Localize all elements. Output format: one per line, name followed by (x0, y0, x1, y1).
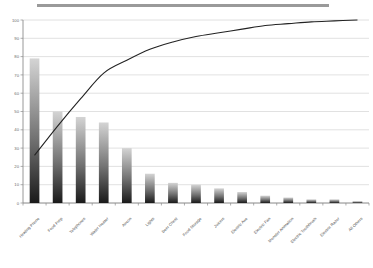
x-axis-label: Heating Phone (18, 216, 41, 239)
gridlines (23, 20, 369, 203)
bar (330, 199, 340, 203)
plot-svg: 0102030405060708090100 (0, 16, 373, 221)
x-axis-label: Food Prep (47, 216, 64, 233)
y-tick-label: 40 (14, 127, 19, 132)
y-tick-label: 90 (14, 36, 19, 41)
plot-area: 0102030405060708090100 (0, 16, 373, 221)
bar (283, 198, 293, 203)
bar (168, 183, 178, 203)
x-axis-label: Electric Razor (319, 216, 341, 238)
bar (237, 192, 247, 203)
title-bar (37, 4, 329, 7)
y-tick-label: 60 (14, 91, 19, 96)
x-axis-label: Electric Fan (252, 216, 271, 235)
x-axis-label: Telephones (68, 216, 86, 234)
x-axis-label: All Others (347, 216, 363, 232)
bar (191, 185, 201, 203)
y-tick-label: 50 (14, 109, 19, 114)
y-tick-label: 80 (14, 54, 19, 59)
y-tick-label: 70 (14, 73, 19, 78)
x-axis-label: Water Heater (89, 216, 110, 237)
y-tick-label: 10 (14, 182, 19, 187)
bar (99, 122, 109, 203)
x-axis-label: Beer Chest (161, 216, 179, 234)
bar (260, 196, 270, 203)
bar (122, 148, 132, 203)
y-tick-label: 20 (14, 164, 19, 169)
y-tick-labels: 0102030405060708090100 (12, 18, 20, 206)
bar (53, 112, 63, 204)
y-tick-label: 100 (12, 18, 20, 23)
x-axis-label: Aircon (121, 216, 133, 228)
x-axis-label: Food Storage (181, 216, 202, 237)
bar (306, 199, 316, 203)
bar (353, 201, 363, 203)
bar (30, 58, 40, 203)
y-tick-label: 0 (17, 201, 20, 206)
pareto-chart: 0102030405060708090100 Heating PhoneFood… (0, 0, 373, 268)
y-tick-label: 30 (14, 146, 19, 151)
x-axis-label: Juicers (212, 216, 225, 229)
bar (214, 188, 224, 203)
x-axis-labels: Heating PhoneFood PrepTelephonesWater He… (0, 216, 373, 268)
x-axis-label: Lights (145, 216, 156, 227)
x-axis-label: Electric Axe (229, 216, 248, 235)
bar (145, 174, 155, 203)
bar-series (30, 58, 363, 203)
bar (76, 117, 86, 203)
